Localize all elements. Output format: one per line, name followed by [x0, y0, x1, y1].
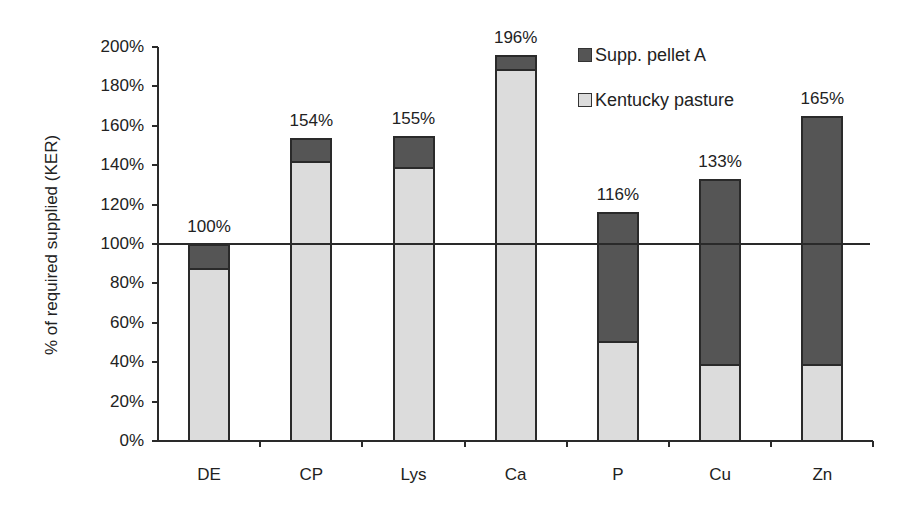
bar-segment-supp-pellet — [495, 55, 537, 71]
bar-segment-kentucky-pasture — [597, 341, 639, 442]
legend-item-supp-pellet: Supp. pellet A — [578, 45, 706, 65]
legend-label: Kentucky pasture — [595, 90, 734, 110]
legend-label: Supp. pellet A — [595, 45, 706, 65]
reference-line-100 — [158, 243, 870, 245]
bar-segment-supp-pellet — [188, 244, 230, 270]
x-tick-label: DE — [169, 465, 249, 485]
y-tick-label: 180% — [74, 76, 144, 96]
bar-total-label: 155% — [374, 109, 454, 129]
y-axis-label: % of required supplied (KER) — [42, 105, 62, 385]
stacked-bar-chart: % of required supplied (KER) 0%20%40%60%… — [0, 0, 908, 516]
x-tick-label: P — [578, 465, 658, 485]
x-tick-label: Zn — [782, 465, 862, 485]
bar-segment-supp-pellet — [699, 179, 741, 366]
bar-total-label: 196% — [476, 28, 556, 48]
y-tick-label: 200% — [74, 37, 144, 57]
bar-total-label: 154% — [271, 111, 351, 131]
x-tick-mark — [259, 441, 261, 447]
bar-total-label: 165% — [782, 89, 862, 109]
bar-segment-supp-pellet — [801, 116, 843, 366]
bar-segment-kentucky-pasture — [699, 364, 741, 442]
bar-segment-kentucky-pasture — [495, 69, 537, 442]
y-tick-label: 0% — [74, 431, 144, 451]
legend-swatch-dark — [578, 48, 592, 62]
legend-swatch-light — [578, 93, 592, 107]
x-tick-label: CP — [271, 465, 351, 485]
x-tick-label: Lys — [374, 465, 454, 485]
x-tick-mark — [668, 441, 670, 447]
bar-segment-kentucky-pasture — [801, 364, 843, 442]
x-tick-mark — [872, 441, 874, 447]
x-tick-mark — [464, 441, 466, 447]
y-tick-label: 60% — [74, 313, 144, 333]
y-tick-label: 80% — [74, 273, 144, 293]
x-tick-mark — [770, 441, 772, 447]
y-tick-label: 120% — [74, 195, 144, 215]
bar-total-label: 100% — [169, 217, 249, 237]
x-tick-label: Ca — [476, 465, 556, 485]
bar-segment-supp-pellet — [597, 212, 639, 342]
y-tick-label: 160% — [74, 116, 144, 136]
bar-total-label: 116% — [578, 185, 658, 205]
y-tick-label: 140% — [74, 155, 144, 175]
y-tick-label: 20% — [74, 392, 144, 412]
bar-segment-kentucky-pasture — [188, 268, 230, 442]
x-tick-mark — [361, 441, 363, 447]
bar-segment-kentucky-pasture — [393, 167, 435, 442]
x-tick-label: Cu — [680, 465, 760, 485]
y-tick-label: 100% — [74, 234, 144, 254]
x-tick-mark — [566, 441, 568, 447]
bar-total-label: 133% — [680, 152, 760, 172]
y-tick-label: 40% — [74, 352, 144, 372]
bar-segment-supp-pellet — [393, 136, 435, 170]
legend-item-kentucky-pasture: Kentucky pasture — [578, 90, 734, 110]
bar-segment-supp-pellet — [290, 138, 332, 164]
bar-segment-kentucky-pasture — [290, 161, 332, 442]
